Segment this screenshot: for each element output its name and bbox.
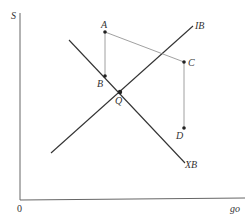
x-axis-label: go (230, 203, 240, 214)
ib-line-label: IB (194, 20, 204, 31)
ib-line (51, 26, 193, 153)
x-axis (20, 198, 245, 200)
point-q (118, 90, 122, 94)
point-c-label: C (188, 57, 195, 68)
a-c-segment (105, 32, 184, 62)
point-a-label: A (100, 19, 108, 30)
xb-line-label: XB (184, 159, 197, 170)
point-q-label: Q (115, 95, 123, 106)
point-d-label: D (175, 130, 184, 141)
xb-line (69, 40, 185, 163)
point-b (103, 74, 107, 78)
point-c (182, 60, 186, 64)
point-b-label: B (97, 78, 103, 89)
y-axis-label: S (11, 10, 16, 21)
origin-label: 0 (17, 203, 22, 214)
diagram-canvas: S go 0 IB XB A B C D Q (0, 0, 251, 218)
point-a (103, 30, 107, 34)
